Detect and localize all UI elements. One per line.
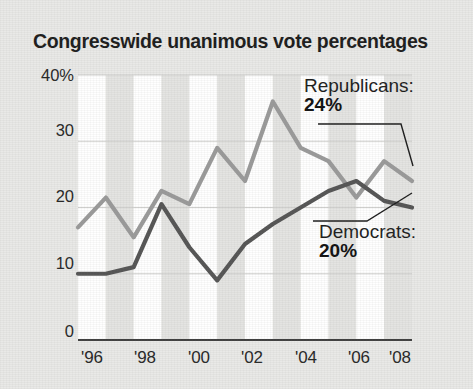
chart-figure: Congresswide unanimous vote percentages … (0, 0, 473, 389)
annotation-democrats-name: Democrats: (319, 222, 416, 241)
annotation-republicans-value: 24% (304, 95, 414, 115)
annotation-democrats-value: 20% (319, 241, 416, 261)
plot-area (0, 0, 473, 389)
annotation-republicans-name: Republicans: (304, 76, 414, 95)
annotation-democrats: Democrats: 20% (319, 222, 416, 261)
annotation-republicans: Republicans: 24% (304, 76, 414, 115)
